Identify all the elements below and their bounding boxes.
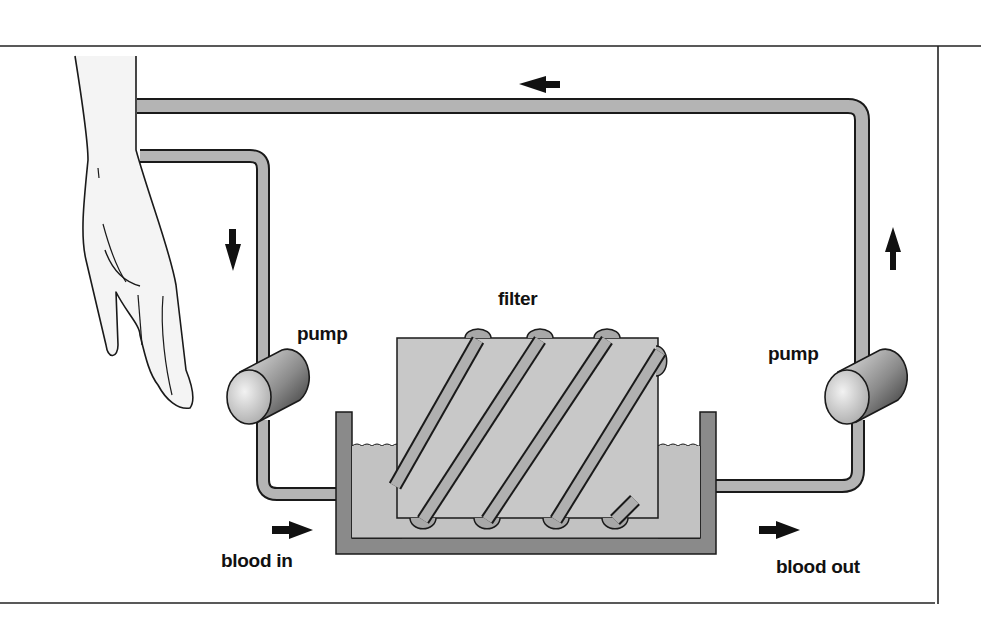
right-pump-icon	[825, 349, 907, 424]
flow-arrow-blood-in-icon	[272, 521, 313, 539]
blood-out-label: blood out	[776, 556, 860, 578]
diagram-canvas	[0, 0, 981, 620]
right-pump-label: pump	[768, 343, 819, 365]
flow-arrow-right-icon	[885, 227, 901, 270]
filter-label: filter	[498, 288, 537, 310]
flow-arrow-left-icon	[225, 229, 241, 271]
blood-in-label: blood in	[221, 550, 292, 572]
return-tube	[137, 106, 862, 365]
flow-arrow-blood-out-icon	[759, 521, 800, 539]
left-pump-label: pump	[297, 323, 348, 345]
flow-arrow-top-icon	[519, 76, 560, 93]
left-pump-icon	[227, 349, 309, 424]
dialysis-diagram: filter pump pump blood in blood out	[0, 0, 981, 620]
